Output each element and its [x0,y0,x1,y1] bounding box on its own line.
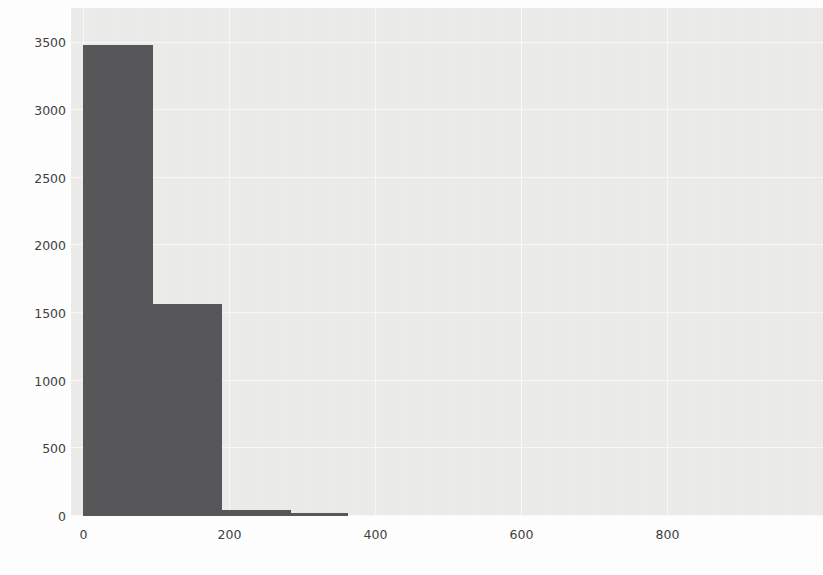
x-tick-label-400: 400 [364,527,388,542]
y-tick-label-1000: 1000 [34,373,66,388]
gridline-x-3 [521,8,522,516]
y-tick-label-3000: 3000 [34,103,66,118]
plot-area [71,8,823,516]
histogram-bar-0 [83,45,152,516]
y-tick-label-2500: 2500 [34,170,66,185]
gridline-x-1 [229,8,230,516]
gridline-y-5 [71,177,823,178]
y-tick-label-2000: 2000 [34,238,66,253]
x-tick-label-600: 600 [510,527,534,542]
figure-canvas: the beamsin words. If a task is ambiguou… [0,0,823,575]
histogram-bar-1 [153,304,222,516]
y-tick-label-0: 0 [58,509,66,524]
gridline-y-7 [71,42,823,43]
gridline-x-4 [667,8,668,516]
x-tick-label-0: 0 [79,527,87,542]
gridline-y-4 [71,244,823,245]
x-tick-label-800: 800 [656,527,680,542]
gridline-y-6 [71,109,823,110]
histogram-bar-3 [291,513,348,516]
y-tick-label-3500: 3500 [34,35,66,50]
histogram-bar-2 [222,510,291,516]
y-tick-label-500: 500 [42,441,66,456]
y-tick-label-1500: 1500 [34,306,66,321]
x-tick-label-200: 200 [217,527,241,542]
gridline-x-2 [375,8,376,516]
